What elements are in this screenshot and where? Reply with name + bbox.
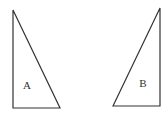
triangle-a-label: A	[23, 79, 31, 91]
triangle-a-shape	[13, 10, 60, 108]
triangle-b-shape	[113, 8, 160, 106]
diagram-canvas: A B	[0, 0, 163, 113]
triangle-b-label: B	[139, 77, 146, 89]
triangle-a: A	[13, 10, 60, 108]
triangle-b: B	[113, 8, 160, 106]
